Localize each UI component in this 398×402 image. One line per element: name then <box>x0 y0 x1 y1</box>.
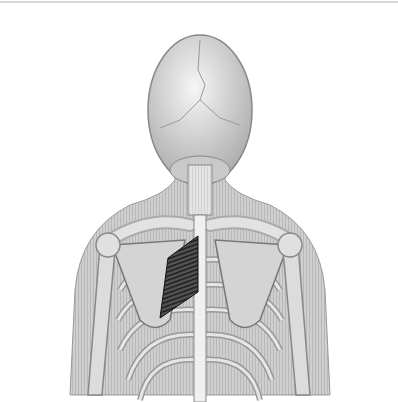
anatomy-illustration <box>0 0 398 402</box>
skull <box>148 35 252 185</box>
cervical-spine <box>188 165 212 215</box>
